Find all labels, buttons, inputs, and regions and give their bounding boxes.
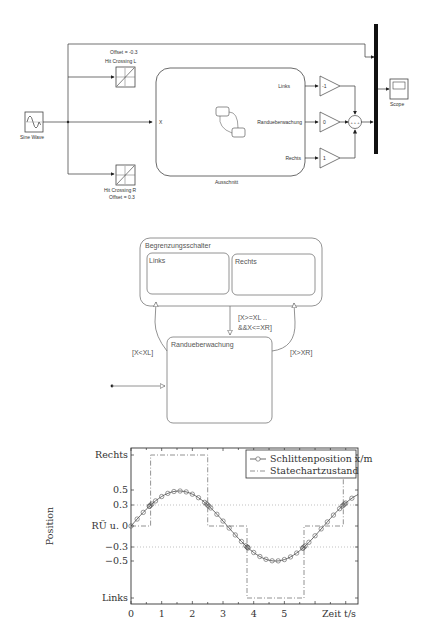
x-tick-label: 4 <box>251 608 257 619</box>
output-port-randueberwachung: Randueberwachung <box>257 119 302 125</box>
mux-block[interactable] <box>374 24 378 154</box>
y-tick-label: RÜ u. 0 <box>92 520 128 531</box>
guard-x-lt-xl: [X<XL] <box>132 349 153 357</box>
hit-crossing-r-param: Offset = 0.3 <box>109 194 135 200</box>
y-tick-label: 0.3 <box>113 499 128 510</box>
guard-x-gt-xr: [X>XR] <box>290 349 312 357</box>
x-tick-label: 5 <box>281 608 287 619</box>
svg-text:0: 0 <box>323 119 326 125</box>
hit-crossing-l-label: Hit Crossing L <box>105 58 137 64</box>
svg-text:Randueberwachung: Randueberwachung <box>171 341 234 349</box>
simulink-model: Sine Wave Offset = -0.3 Hit Crossing L H <box>20 24 408 200</box>
sine-wave-block[interactable]: Sine Wave <box>20 112 44 140</box>
ausschnitt-chart-block[interactable]: X Links Randueberwachung Rechts Ausschni… <box>156 68 305 185</box>
hit-crossing-l-param: Offset = -0.3 <box>110 49 138 55</box>
y-tick-label: 0.5 <box>113 484 128 495</box>
state-links[interactable]: Links <box>147 253 229 294</box>
transition-to-links[interactable] <box>155 302 167 351</box>
gain-block-zero[interactable]: 0 <box>320 112 340 132</box>
svg-text:-1: -1 <box>322 83 327 89</box>
sum-block[interactable]: + + + <box>349 116 362 129</box>
scope-label: Scope <box>390 101 404 107</box>
state-randueberwachung[interactable]: Randueberwachung <box>167 337 272 423</box>
state-rechts[interactable]: Rechts <box>232 254 315 295</box>
gain-block-one[interactable]: 1 <box>320 148 340 168</box>
y-axis-label: Position <box>44 507 55 545</box>
svg-text:Rechts: Rechts <box>235 258 257 265</box>
hit-crossing-r-block[interactable]: Hit Crossing R Offset = 0.3 <box>104 165 137 200</box>
guard-return-line1: [X>=XL .. <box>238 314 267 322</box>
output-port-links: Links <box>278 83 290 89</box>
svg-text:Begrenzungsschalter: Begrenzungsschalter <box>145 242 211 250</box>
hit-crossing-r-label: Hit Crossing R <box>104 187 137 193</box>
transition-to-rechts[interactable] <box>272 303 295 351</box>
stateflow-chart: Begrenzungsschalter Links Rechts Randueb… <box>111 238 322 423</box>
y-tick-label: −0.5 <box>105 555 128 566</box>
svg-text:1: 1 <box>323 155 326 161</box>
sine-wave-label: Sine Wave <box>20 134 44 140</box>
x-tick-label: 1 <box>159 608 165 619</box>
y-tick-label: Rechts <box>95 449 128 460</box>
guard-return-line2: &&X<=XR] <box>238 324 272 332</box>
x-tick-label: 3 <box>220 608 226 619</box>
legend-item-schlittenposition: Schlittenposition x/m <box>270 453 372 464</box>
ausschnitt-label: Ausschnitt <box>215 179 239 185</box>
x-tick-label: 0 <box>128 608 134 619</box>
y-tick-label: −0.3 <box>105 541 128 552</box>
output-port-rechts: Rechts <box>285 155 301 161</box>
gain-block-minus-one[interactable]: -1 <box>320 76 340 96</box>
hit-crossing-l-block[interactable]: Offset = -0.3 Hit Crossing L <box>105 49 138 87</box>
legend-item-statechartzustand: Statechartzustand <box>270 465 359 476</box>
x-tick-label: 2 <box>189 608 195 619</box>
svg-text:Links: Links <box>149 257 166 264</box>
y-tick-label: Links <box>102 592 128 603</box>
scope-block[interactable]: Scope <box>390 79 408 107</box>
x-axis-label: Zeit t/s <box>322 608 356 619</box>
position-plot: Rechts0.50.3RÜ u. 0−0.3−0.5Links012345Ze… <box>44 448 372 619</box>
svg-text:+ + +: + + + <box>350 120 360 125</box>
